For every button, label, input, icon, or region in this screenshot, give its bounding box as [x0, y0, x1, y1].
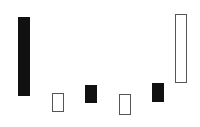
floating-bar-chart [0, 0, 200, 127]
bar-6-hollow [175, 14, 187, 83]
bar-1-filled [18, 17, 30, 96]
bar-2-hollow [52, 93, 64, 112]
bar-3-filled [85, 85, 97, 103]
bar-4-hollow [119, 94, 131, 115]
bar-5-filled [152, 83, 164, 102]
